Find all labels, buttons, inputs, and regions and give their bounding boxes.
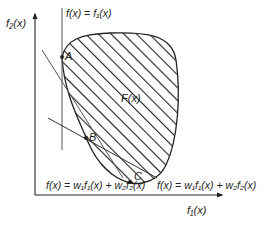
feasible-region — [62, 33, 178, 184]
region-label: F(x) — [121, 93, 141, 104]
y-axis-label: f₂(x) — [6, 18, 26, 29]
point-a-marker — [60, 55, 64, 59]
point-b-marker — [84, 136, 88, 140]
vertical-line-label: f(x) = f₁(x) — [66, 8, 112, 19]
x-axis-label: f₁(x) — [187, 205, 206, 216]
point-b-label: B — [89, 132, 96, 143]
weighted-sum-label-steep: f(x) = w₁f₁(x) + w₂f₂(x) — [46, 180, 145, 191]
objective-space-diagram — [0, 0, 267, 225]
point-a-label: A — [65, 51, 72, 62]
weighted-sum-label-shallow: f(x) = w₁f₁(x) + w₂f₂(x) — [157, 180, 256, 191]
